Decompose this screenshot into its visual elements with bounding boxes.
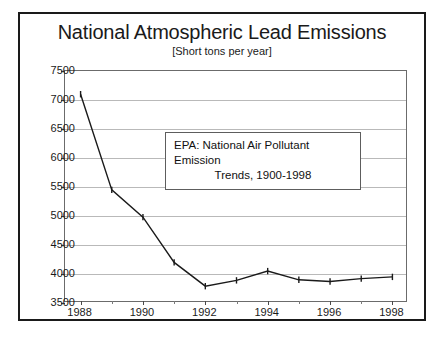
y-tick-label: 4500 <box>51 238 75 250</box>
x-tick-label: 1990 <box>130 306 154 318</box>
annotation-source-note: EPA: National Air Pollutant Emission Tre… <box>165 132 361 190</box>
annotation-line-1: EPA: National Air Pollutant Emission <box>174 138 352 168</box>
x-tick-label: 1988 <box>67 306 91 318</box>
x-tick-label: 1992 <box>192 306 216 318</box>
y-tick-label: 7000 <box>51 93 75 105</box>
chart-figure-frame: National Atmospheric Lead Emissions [Sho… <box>18 12 426 321</box>
y-tick-label: 6500 <box>51 122 75 134</box>
chart-subtitle: [Short tons per year] <box>20 45 424 57</box>
chart-title: National Atmospheric Lead Emissions <box>20 21 424 44</box>
y-tick-label: 7500 <box>51 64 75 76</box>
annotation-line-2: Trends, 1900-1998 <box>174 168 352 183</box>
series-line <box>81 94 393 286</box>
x-tick-label: 1998 <box>379 306 403 318</box>
y-tick-label: 5500 <box>51 180 75 192</box>
x-tick-label: 1996 <box>317 306 341 318</box>
x-tick-label: 1994 <box>254 306 278 318</box>
y-tick-label: 6000 <box>51 151 75 163</box>
y-tick-label: 4000 <box>51 267 75 279</box>
y-tick-label: 5000 <box>51 209 75 221</box>
